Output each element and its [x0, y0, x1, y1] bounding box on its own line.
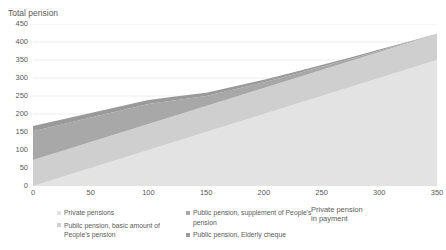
y-axis-title: Total pension: [8, 8, 58, 18]
chart-legend: Private pensionsPublic pension, basic am…: [0, 208, 446, 250]
y-axis-tick-label: 300: [2, 74, 28, 82]
y-axis-tick-label: 50: [2, 164, 28, 172]
legend-item-label: Private pensions: [64, 208, 175, 218]
x-axis-tick-label: 50: [71, 189, 111, 197]
y-axis-tick-label: 200: [2, 110, 28, 118]
stacked-area-chart: Total pension Private pension in payment…: [0, 0, 446, 250]
legend-swatch-basic-amount: [57, 223, 61, 227]
x-axis-tick-label: 300: [359, 189, 399, 197]
plot-svg: [33, 24, 437, 186]
x-axis-tick-label: 150: [186, 189, 226, 197]
x-axis-tick-label: 350: [417, 189, 446, 197]
legend-item[interactable]: Private pensions: [57, 208, 175, 218]
legend-item-label: Public pension, Elderly cheque: [193, 230, 316, 240]
x-axis-tick-label: 0: [13, 189, 53, 197]
legend-column-1: Private pensionsPublic pension, basic am…: [57, 208, 175, 243]
legend-column-2: Public pension, supplement of People's p…: [186, 208, 316, 243]
y-axis-tick-label: 150: [2, 128, 28, 136]
legend-item[interactable]: Public pension, supplement of People's p…: [186, 208, 316, 227]
legend-item[interactable]: Public pension, Elderly cheque: [186, 230, 316, 240]
plot-area: [33, 24, 437, 186]
legend-item-label: Public pension, supplement of People's p…: [193, 208, 316, 227]
legend-swatch-elderly-cheque: [186, 233, 190, 237]
x-axis-tick-label: 200: [244, 189, 284, 197]
y-axis-tick-label: 250: [2, 92, 28, 100]
y-axis-tick-label: 400: [2, 38, 28, 46]
legend-item[interactable]: Public pension, basic amount of People's…: [57, 221, 175, 240]
legend-swatch-private-pensions: [57, 211, 61, 215]
legend-swatch-supplement: [186, 211, 190, 215]
y-axis-tick-label: 350: [2, 56, 28, 64]
x-axis-tick-label: 100: [128, 189, 168, 197]
legend-item-label: Public pension, basic amount of People's…: [64, 221, 175, 240]
x-axis-tick-label: 250: [302, 189, 342, 197]
y-axis-tick-label: 100: [2, 146, 28, 154]
y-axis-tick-label: 450: [2, 20, 28, 28]
